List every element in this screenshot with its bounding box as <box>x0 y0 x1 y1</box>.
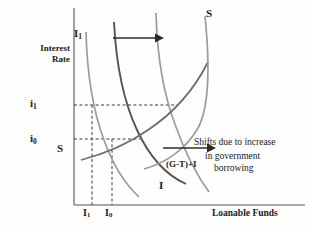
y-tick-i1: i1 <box>30 98 37 110</box>
annotation-line1: Shifts due to increase <box>194 138 276 148</box>
x-tick-I0: I0 <box>105 208 112 219</box>
x-axis-label: Loanable Funds <box>212 209 278 219</box>
curve-label-supply-left: S <box>57 143 63 155</box>
curve-label-supply-top: S <box>206 8 212 20</box>
curve-label-deficit-plus-investment: (G-T)+I <box>166 160 197 169</box>
curve-label-investment-shifted: I <box>159 180 163 192</box>
x-tick-I1-sub: 1 <box>87 211 90 218</box>
y-tick-i0: i0 <box>30 133 37 145</box>
curve-label-investment-initial-sub: 1 <box>78 32 82 41</box>
x-tick-I1: I1 <box>83 208 90 219</box>
annotation-line3: borrowing <box>214 164 254 174</box>
y-axis-label-line2: Rate <box>12 55 70 64</box>
x-tick-I0-sub: 0 <box>109 211 112 218</box>
shift-arrow-top <box>113 34 164 43</box>
loanable-funds-diagram <box>0 0 309 232</box>
y-tick-i1-sub: 1 <box>33 102 37 111</box>
curve-label-investment-initial: I1 <box>74 28 82 40</box>
y-axis-label-line1: Interest <box>12 44 70 53</box>
annotation-line2: in government <box>205 152 260 162</box>
figure-canvas: Interest Rate Loanable Funds i1 i0 I1 I0… <box>0 0 309 232</box>
y-tick-i0-sub: 0 <box>33 137 37 146</box>
